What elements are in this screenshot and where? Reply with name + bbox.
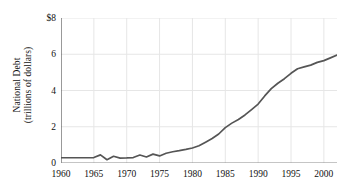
x-tick-label: 1995 <box>282 169 301 179</box>
x-tick-label: 1990 <box>249 169 268 179</box>
data-series-line <box>61 55 337 160</box>
y-axis-label-line2: (trillions of dollars) <box>23 47 34 124</box>
chart-figure: National Debt (trillions of dollars) <box>0 0 347 191</box>
x-tick-label: 2000 <box>314 169 333 179</box>
x-tick-label: 1985 <box>216 169 235 179</box>
x-tick-label: 1980 <box>183 169 202 179</box>
y-axis-label: National Debt (trillions of dollars) <box>0 0 46 170</box>
grid-lines <box>61 18 337 163</box>
plot-area <box>61 18 337 163</box>
chart-svg <box>61 18 337 163</box>
x-tick-label: 1975 <box>150 169 169 179</box>
x-tick-label: 1970 <box>117 169 136 179</box>
y-axis-label-line1: National Debt <box>12 58 22 113</box>
x-tick-label: 1965 <box>84 169 103 179</box>
x-tick-label: 1960 <box>52 169 71 179</box>
